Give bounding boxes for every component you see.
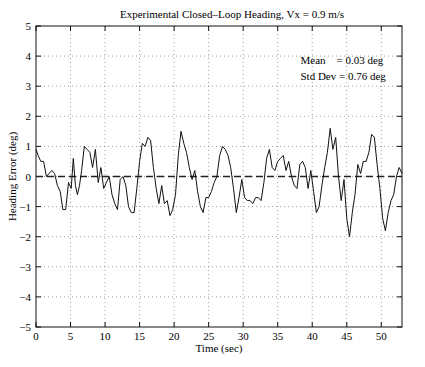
- y-tick-label: 3: [26, 80, 32, 92]
- y-tick-label: 0: [26, 171, 32, 183]
- x-tick-label: 30: [238, 330, 250, 342]
- y-tick-label: 4: [26, 50, 32, 62]
- y-tick-label: 1: [26, 140, 32, 152]
- y-tick-label: −3: [19, 261, 31, 273]
- mean-annotation: Mean = 0.03 deg: [300, 54, 383, 66]
- x-tick-label: 15: [134, 330, 146, 342]
- std-dev-annotation: Std Dev = 0.76 deg: [300, 70, 386, 82]
- x-tick-label: 35: [272, 330, 284, 342]
- x-tick-label: 40: [307, 330, 319, 342]
- y-tick-label: 2: [26, 110, 32, 122]
- x-tick-label: 25: [203, 330, 215, 342]
- x-tick-label: 5: [68, 330, 74, 342]
- y-tick-label: −2: [19, 231, 31, 243]
- y-tick-label: −5: [19, 321, 31, 333]
- x-tick-label: 0: [33, 330, 39, 342]
- y-axis-label: Heading Error (deg): [6, 132, 19, 222]
- y-tick-label: −4: [19, 291, 31, 303]
- x-tick-label: 45: [341, 330, 353, 342]
- x-tick-label: 50: [376, 330, 388, 342]
- heading-error-chart: Experimental Closed–Loop Heading, Vx = 0…: [0, 0, 425, 367]
- x-axis-label: Time (sec): [196, 342, 243, 355]
- x-tick-label: 20: [169, 330, 181, 342]
- x-tick-label: 10: [100, 330, 112, 342]
- y-tick-label: 5: [26, 20, 32, 32]
- y-tick-label: −1: [19, 201, 31, 213]
- chart-title: Experimental Closed–Loop Heading, Vx = 0…: [120, 8, 344, 20]
